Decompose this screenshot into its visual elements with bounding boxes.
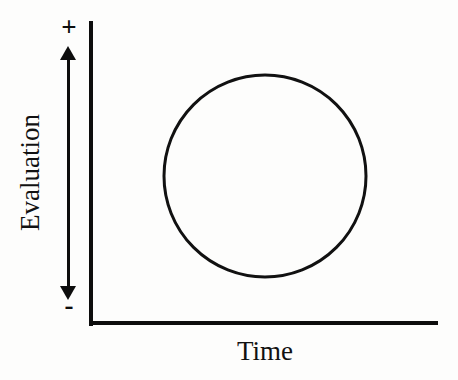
y-axis-title: Evaluation: [15, 83, 46, 263]
y-axis-negative-marker: -: [56, 292, 82, 319]
arrow-shaft: [67, 54, 70, 292]
evaluation-direction-arrow-icon: [58, 44, 80, 302]
y-axis-positive-marker: +: [56, 14, 82, 41]
x-axis-title: Time: [185, 336, 345, 367]
y-axis-line: [89, 21, 93, 326]
figure-canvas: + - Evaluation Time: [0, 0, 458, 380]
x-axis-line: [89, 321, 438, 325]
evaluation-trajectory-circle: [164, 75, 366, 277]
